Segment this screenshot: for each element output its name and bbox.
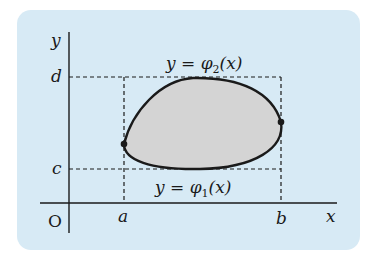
upper-curve-subscript: 2 (213, 63, 220, 76)
lower-curve-suffix: (x) (209, 177, 232, 197)
lower-curve-label: y = φ1(x) (154, 177, 231, 200)
lower-curve-subscript: 1 (202, 187, 209, 200)
c-tick-label: c (52, 158, 62, 178)
region-diagram: y x O d c a b y = φ2(x) y = φ1(x) (0, 0, 381, 258)
d-tick-label: d (51, 66, 62, 86)
lower-curve-prefix: y = φ (154, 177, 202, 197)
upper-curve-label: y = φ2(x) (165, 53, 242, 76)
upper-curve-prefix: y = φ (165, 53, 213, 73)
b-tick-label: b (276, 208, 287, 228)
left-endpoint-dot (121, 141, 128, 148)
origin-label: O (48, 211, 62, 231)
region-shape (124, 78, 281, 169)
x-axis-label: x (326, 206, 336, 226)
upper-curve-suffix: (x) (220, 53, 243, 73)
a-tick-label: a (118, 206, 128, 226)
right-endpoint-dot (278, 119, 285, 126)
y-axis-label: y (50, 30, 61, 50)
